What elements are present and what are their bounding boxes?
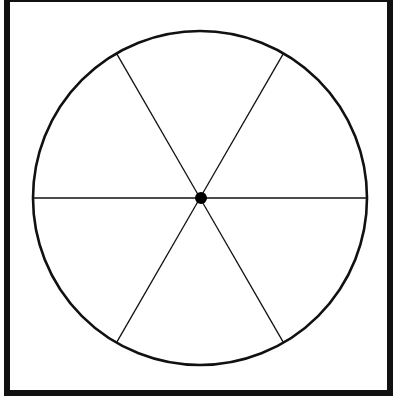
spinner-spoke (200, 53, 284, 198)
spinner-spoke (200, 198, 284, 343)
spinner-spoke (117, 198, 201, 343)
spinner-spoke (117, 53, 201, 198)
spinner-diagram (0, 0, 394, 399)
spinner-hub (195, 192, 207, 204)
